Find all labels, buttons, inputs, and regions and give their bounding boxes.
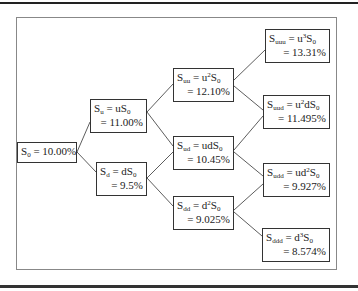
node-sdd: Sdd = d2S0 = 9.025% bbox=[173, 196, 234, 230]
bottom-rule bbox=[0, 285, 358, 288]
node-sud: Sud = udS0 = 10.45% bbox=[173, 136, 234, 170]
node-suud: Suud = u2dS0 = 11.495% bbox=[263, 95, 330, 129]
node-su: Su = uS0 = 11.00% bbox=[90, 99, 147, 133]
node-suuu: Suuu = u3S0 = 13.31% bbox=[265, 29, 330, 63]
node-suu: Suu = u2S0 = 12.10% bbox=[173, 68, 234, 102]
node-s0: S0 = 10.00% bbox=[17, 142, 77, 163]
node-sd: Sd = dS0 = 9.5% bbox=[96, 162, 147, 196]
node-sudd: Sudd = ud2S0 = 9.927% bbox=[263, 163, 330, 197]
node-sddd: Sddd = d3S0 = 8.574% bbox=[262, 228, 330, 262]
